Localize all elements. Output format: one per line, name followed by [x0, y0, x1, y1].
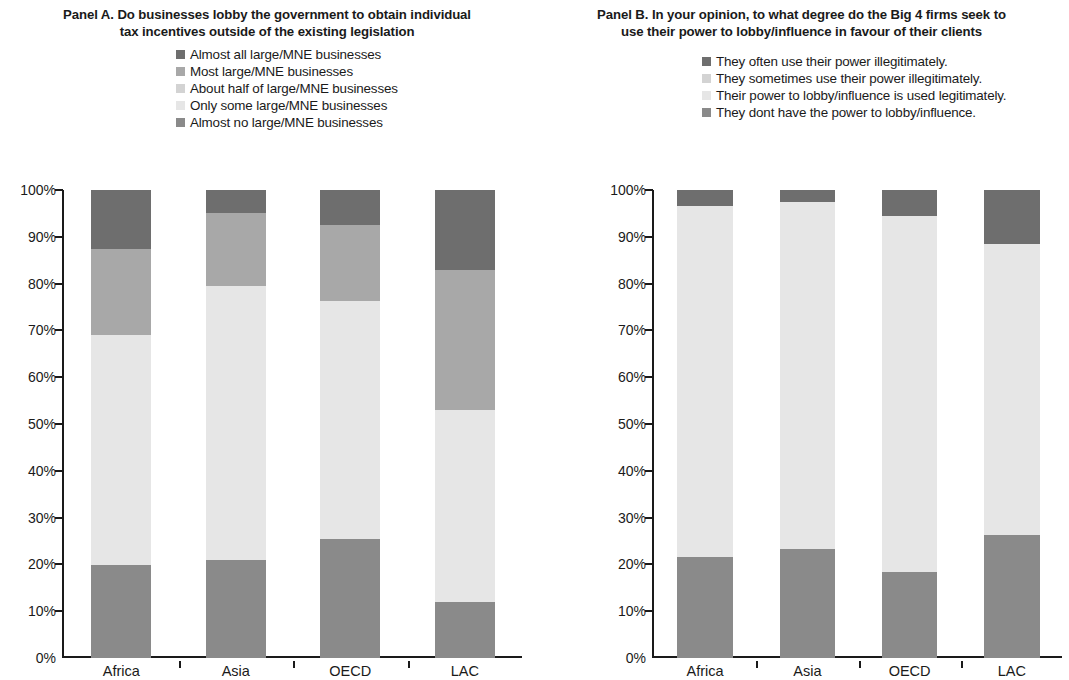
bar-segment	[435, 190, 495, 270]
y-axis-tick-label: 40%	[28, 464, 56, 478]
y-axis-tick-label: 70%	[618, 323, 646, 337]
bar-segment	[882, 190, 938, 216]
y-axis-tick-mark	[645, 329, 653, 331]
x-axis-category-label: Asia	[793, 663, 821, 679]
panel-a-x-axis-labels: AfricaAsiaOECDLAC	[64, 663, 522, 680]
bar-segment	[882, 216, 938, 573]
legend-swatch-icon	[176, 84, 185, 93]
legend-item-label: Their power to lobby/influence is used l…	[716, 87, 1006, 104]
bar-segment	[435, 270, 495, 410]
bar-segment	[780, 190, 836, 202]
y-axis-tick-label: 70%	[28, 323, 56, 337]
bar-segment	[984, 190, 1040, 244]
y-axis-tick-label: 0%	[626, 651, 646, 665]
panel-b-bars	[654, 190, 1063, 658]
y-axis-tick-mark	[645, 470, 653, 472]
bar-stack	[882, 190, 938, 658]
y-axis-tick-mark	[645, 517, 653, 519]
y-axis-tick-mark	[645, 236, 653, 238]
y-axis-tick-label: 20%	[618, 557, 646, 571]
y-axis-tick-mark	[645, 283, 653, 285]
y-axis-tick-mark	[55, 470, 63, 472]
x-axis-category-label: Asia	[222, 663, 250, 679]
legend-item-label: They often use their power illegitimatel…	[716, 53, 948, 70]
x-axis-category-label: OECD	[889, 663, 931, 679]
bar-segment	[206, 213, 266, 286]
legend-item: Almost no large/MNE businesses	[176, 114, 383, 131]
bar-segment	[435, 410, 495, 602]
legend-item: Only some large/MNE businesses	[176, 97, 387, 114]
y-axis-tick-label: 50%	[28, 417, 56, 431]
bar-segment	[780, 549, 836, 658]
bar-segment	[320, 225, 380, 301]
bar-segment	[984, 244, 1040, 536]
bar-stack	[206, 190, 266, 658]
y-axis-tick-mark	[645, 563, 653, 565]
y-axis-tick-label: 60%	[618, 370, 646, 384]
legend-swatch-icon	[702, 108, 711, 117]
bar-stack	[677, 190, 733, 658]
bar-segment	[320, 301, 380, 539]
x-axis-category-label: LAC	[998, 663, 1026, 679]
y-axis-tick-label: 90%	[28, 230, 56, 244]
y-axis-tick-mark	[55, 329, 63, 331]
y-axis-tick-label: 0%	[36, 651, 56, 665]
bar-stack	[435, 190, 495, 658]
legend-item: About half of large/MNE businesses	[176, 80, 398, 97]
y-axis-tick-label: 100%	[20, 183, 56, 197]
bar-segment	[677, 557, 733, 658]
panel-a-legend: Almost all large/MNE businessesMost larg…	[0, 46, 534, 131]
panel-a-bars	[64, 190, 522, 658]
legend-swatch-icon	[702, 57, 711, 66]
panel-a-plot: 0%10%20%30%40%50%60%70%80%90%100% Africa…	[0, 185, 534, 670]
legend-item: They dont have the power to lobby/influe…	[702, 104, 976, 121]
y-axis-tick-label: 50%	[618, 417, 646, 431]
legend-item: They often use their power illegitimatel…	[702, 53, 948, 70]
bar-stack	[91, 190, 151, 658]
bar-segment	[206, 286, 266, 560]
legend-item: Almost all large/MNE businesses	[176, 46, 381, 63]
x-axis-category-label: Africa	[687, 663, 724, 679]
y-axis-tick-label: 20%	[28, 557, 56, 571]
legend-swatch-icon	[702, 74, 711, 83]
bar-segment	[435, 602, 495, 658]
y-axis-tick-mark	[55, 423, 63, 425]
y-axis-tick-mark	[55, 376, 63, 378]
bar-stack	[780, 190, 836, 658]
y-axis-tick-mark	[55, 517, 63, 519]
y-axis-tick-mark	[55, 563, 63, 565]
bar-segment	[91, 565, 151, 658]
x-axis-category-label: OECD	[329, 663, 371, 679]
bar-segment	[677, 206, 733, 557]
legend-item-label: They sometimes use their power illegitim…	[716, 70, 982, 87]
y-axis-tick-mark	[645, 610, 653, 612]
y-axis-tick-mark	[55, 236, 63, 238]
legend-item-label: Most large/MNE businesses	[190, 63, 353, 80]
y-axis-tick-label: 30%	[28, 511, 56, 525]
bar-segment	[206, 560, 266, 658]
panel-b: Panel B. In your opinion, to what degree…	[534, 0, 1069, 670]
y-axis-tick-label: 80%	[28, 277, 56, 291]
bar-segment	[91, 335, 151, 565]
panel-a-title: Panel A. Do businesses lobby the governm…	[57, 0, 477, 41]
bar-segment	[91, 249, 151, 336]
y-axis-tick-mark	[645, 376, 653, 378]
y-axis-tick-label: 90%	[618, 230, 646, 244]
bar-segment	[206, 190, 266, 213]
legend-item: They sometimes use their power illegitim…	[702, 70, 982, 87]
legend-item-label: About half of large/MNE businesses	[190, 80, 398, 97]
legend-item-label: Only some large/MNE businesses	[190, 97, 387, 114]
y-axis-tick-mark	[55, 189, 63, 191]
legend-item-label: Almost no large/MNE businesses	[190, 114, 383, 131]
y-axis-tick-label: 30%	[618, 511, 646, 525]
y-axis-tick-label: 10%	[618, 604, 646, 618]
bar-segment	[780, 202, 836, 550]
legend-item: Their power to lobby/influence is used l…	[702, 87, 1006, 104]
y-axis-tick-mark	[645, 189, 653, 191]
x-axis-category-label: LAC	[451, 663, 479, 679]
legend-item-label: Almost all large/MNE businesses	[190, 46, 381, 63]
bar-segment	[677, 190, 733, 206]
y-axis-tick-label: 10%	[28, 604, 56, 618]
y-axis-tick-mark	[55, 610, 63, 612]
